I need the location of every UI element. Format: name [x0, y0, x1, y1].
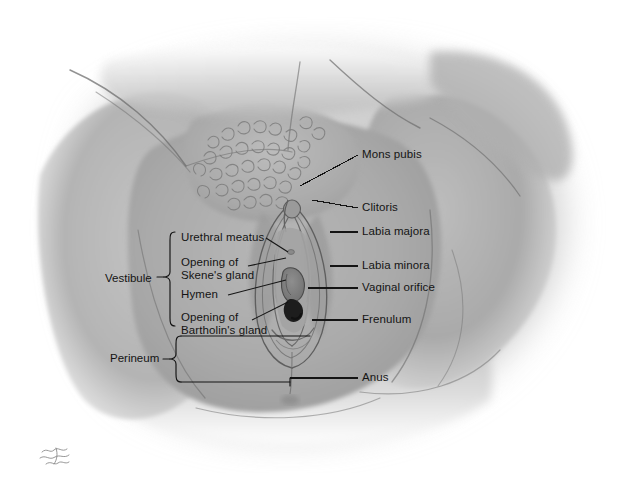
label-bartholin-gland-line1: Opening of — [181, 311, 238, 325]
label-hymen: Hymen — [181, 288, 218, 302]
label-clitoris: Clitoris — [362, 201, 398, 215]
label-anus: Anus — [362, 371, 389, 385]
label-vaginal-orifice: Vaginal orifice — [362, 281, 435, 295]
label-labia-majora: Labia majora — [362, 225, 430, 239]
label-frenulum: Frenulum — [362, 313, 411, 327]
label-mons-pubis: Mons pubis — [362, 148, 422, 162]
anatomical-figure: Mons pubis Clitoris Labia majora Labia m… — [0, 0, 631, 486]
label-urethral-meatus: Urethral meatus — [181, 231, 264, 245]
label-bartholin-gland-line2: Bartholin's gland — [181, 324, 267, 338]
label-labia-minora: Labia minora — [362, 259, 430, 273]
group-label-vestibule: Vestibule — [105, 272, 152, 284]
anatomy-drawing — [0, 0, 631, 486]
artist-signature — [40, 448, 69, 464]
label-skene-gland-line1: Opening of — [181, 256, 238, 270]
group-label-perineum: Perineum — [110, 352, 159, 364]
label-skene-gland-line2: Skene's gland — [181, 269, 254, 283]
